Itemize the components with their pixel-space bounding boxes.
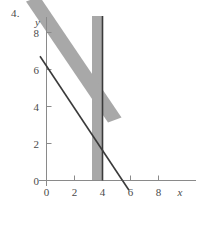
coordinate-plot: 0 2 4 6 8 0 2 4 6 8 y x (0, 0, 214, 234)
x-tick-label-6: 6 (128, 186, 134, 198)
slanted-region-shading (26, 0, 122, 123)
x-tick-label-4: 4 (100, 186, 106, 198)
y-axis-ticks (47, 33, 52, 181)
x-axis-label: x (177, 186, 183, 198)
y-tick-label-8: 8 (34, 27, 40, 39)
y-axis-label: y (34, 16, 40, 28)
y-tick-label-0: 0 (34, 175, 40, 187)
y-tick-label-4: 4 (34, 101, 40, 113)
x-tick-label-8: 8 (156, 186, 162, 198)
x-tick-label-2: 2 (72, 186, 78, 198)
x-tick-label-0: 0 (44, 186, 50, 198)
y-tick-label-2: 2 (34, 138, 40, 150)
figure-container: 4. (0, 0, 214, 234)
y-tick-label-6: 6 (34, 64, 40, 76)
